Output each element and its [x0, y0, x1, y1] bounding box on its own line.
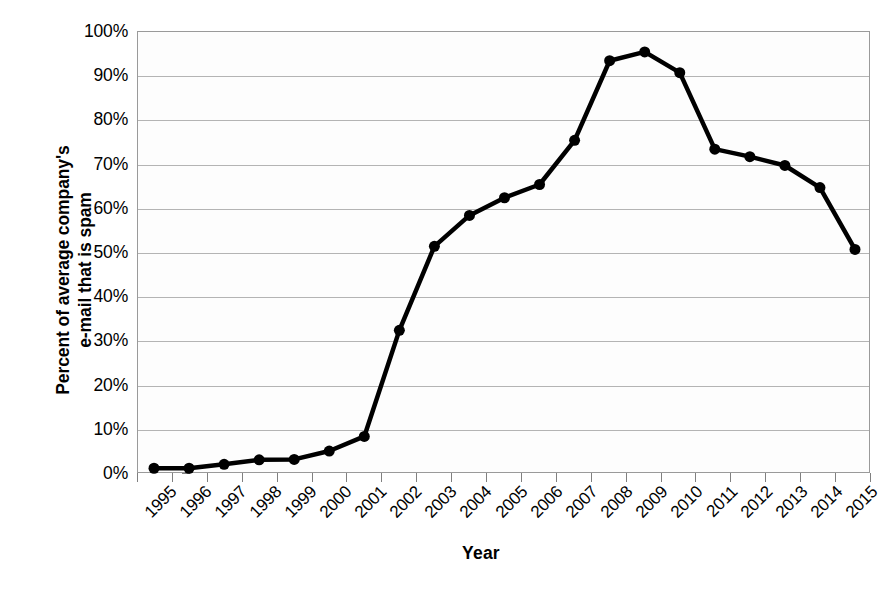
x-axis-tick-mark — [661, 473, 662, 482]
x-axis-tick-mark — [381, 473, 382, 482]
x-axis-tick-label: 2015 — [842, 482, 882, 522]
x-axis-tick-mark — [695, 473, 696, 482]
x-axis-tick-label: 2014 — [807, 482, 847, 522]
series-line — [154, 52, 855, 468]
x-axis-tick-label: 1998 — [246, 482, 286, 522]
x-axis-tick-label: 2004 — [456, 482, 496, 522]
data-point-marker: 2000: 5.2% — [324, 446, 335, 457]
data-point-marker: 2011: 73.5% — [709, 144, 720, 155]
x-axis-tick-labels: 1995199619971998199920002001200220032004… — [137, 482, 870, 544]
y-axis-tick-label: 100% — [52, 21, 128, 42]
x-axis-tick-mark — [556, 473, 557, 482]
data-point-marker: 2009: 95.5% — [639, 46, 650, 57]
x-axis-tick-label: 2013 — [772, 482, 812, 522]
y-axis-tick-label: 50% — [52, 242, 128, 263]
data-point-marker: 2002: 32.5% — [394, 325, 405, 336]
x-axis-tick-label: 2012 — [737, 482, 777, 522]
x-axis-tick-label: 2002 — [386, 482, 426, 522]
x-axis-tick-label: 2011 — [703, 482, 742, 521]
x-axis-tick-mark — [626, 473, 627, 482]
x-axis-tick-label: 2007 — [561, 482, 601, 522]
y-axis-tick-label: 0% — [52, 463, 128, 484]
data-point-marker: 2006: 65.5% — [534, 179, 545, 190]
y-axis-tick-label: 30% — [52, 330, 128, 351]
x-axis-tick-label: 2000 — [316, 482, 356, 522]
y-axis-tick-label: 60% — [52, 197, 128, 218]
x-axis-tick-label: 2003 — [421, 482, 461, 522]
y-axis-tick-label: 10% — [52, 418, 128, 439]
x-axis-tick-label: 2005 — [491, 482, 531, 522]
x-axis-tick-mark — [346, 473, 347, 482]
data-point-marker: 2003: 51.5% — [429, 241, 440, 252]
x-axis-tick-mark — [870, 473, 871, 482]
x-axis-tick-label: 1996 — [176, 482, 216, 522]
y-axis-tick-label: 20% — [52, 374, 128, 395]
x-axis-tick-mark — [835, 473, 836, 482]
data-point-marker: 2008: 93.5% — [604, 55, 615, 66]
x-axis-tick-label: 2008 — [596, 482, 636, 522]
data-point-marker: 2014: 64.8% — [814, 182, 825, 193]
y-axis-tick-labels: 0%10%20%30%40%50%60%70%80%90%100% — [52, 31, 128, 473]
x-axis-tick-mark — [451, 473, 452, 482]
y-axis-tick-label: 90% — [52, 65, 128, 86]
plot-area: 1995: 1.3%1996: 1.3%1997: 2.2%1998: 3.2%… — [137, 31, 870, 473]
data-point-marker: 2005: 62.5% — [499, 192, 510, 203]
x-axis-tick-label: 2010 — [667, 482, 707, 522]
x-axis-title-text: Year — [462, 543, 500, 564]
x-axis-tick-mark — [137, 473, 138, 482]
data-point-marker: 2015: 50.8% — [850, 244, 861, 255]
x-axis-tick-mark — [486, 473, 487, 482]
y-axis-tick-label: 40% — [52, 286, 128, 307]
data-point-marker: 2012: 71.8% — [744, 151, 755, 162]
x-axis-tick-mark — [312, 473, 313, 482]
x-axis-tick-mark — [730, 473, 731, 482]
x-axis-tick-label: 1995 — [141, 482, 181, 522]
data-point-marker: 2001: 8.5% — [359, 431, 370, 442]
x-axis-tick-mark — [800, 473, 801, 482]
x-axis-tick-mark — [765, 473, 766, 482]
x-axis-tick-mark — [521, 473, 522, 482]
data-point-marker: 1997: 2.2% — [219, 459, 230, 470]
y-axis-tick-label: 70% — [52, 153, 128, 174]
x-axis-tick-mark — [277, 473, 278, 482]
data-point-marker: 2007: 75.5% — [569, 135, 580, 146]
x-axis-tick-mark — [172, 473, 173, 482]
x-axis-tick-mark — [242, 473, 243, 482]
x-axis-tick-label: 2009 — [632, 482, 672, 522]
x-axis-title: Year — [0, 543, 893, 564]
x-axis-tick-mark — [416, 473, 417, 482]
data-point-marker: 2010: 90.8% — [674, 67, 685, 78]
data-point-marker: 1999: 3.3% — [289, 454, 300, 465]
data-point-marker: 1998: 3.2% — [254, 454, 265, 465]
x-axis-tick-mark — [207, 473, 208, 482]
x-axis-tick-label: 1999 — [281, 482, 321, 522]
chart-container: Percent of average company's e-mail that… — [0, 0, 893, 591]
x-axis-tick-marks — [137, 473, 870, 482]
x-axis-tick-label: 2001 — [351, 482, 391, 522]
y-axis-tick-label: 80% — [52, 109, 128, 130]
spam-percentage-line-series: 1995: 1.3%1996: 1.3%1997: 2.2%1998: 3.2%… — [138, 32, 871, 474]
x-axis-tick-label: 1997 — [211, 482, 251, 522]
x-axis-tick-label: 2006 — [526, 482, 566, 522]
x-axis-tick-mark — [591, 473, 592, 482]
data-point-marker: 2013: 69.8% — [779, 160, 790, 171]
data-point-marker: 2004: 58.5% — [464, 210, 475, 221]
